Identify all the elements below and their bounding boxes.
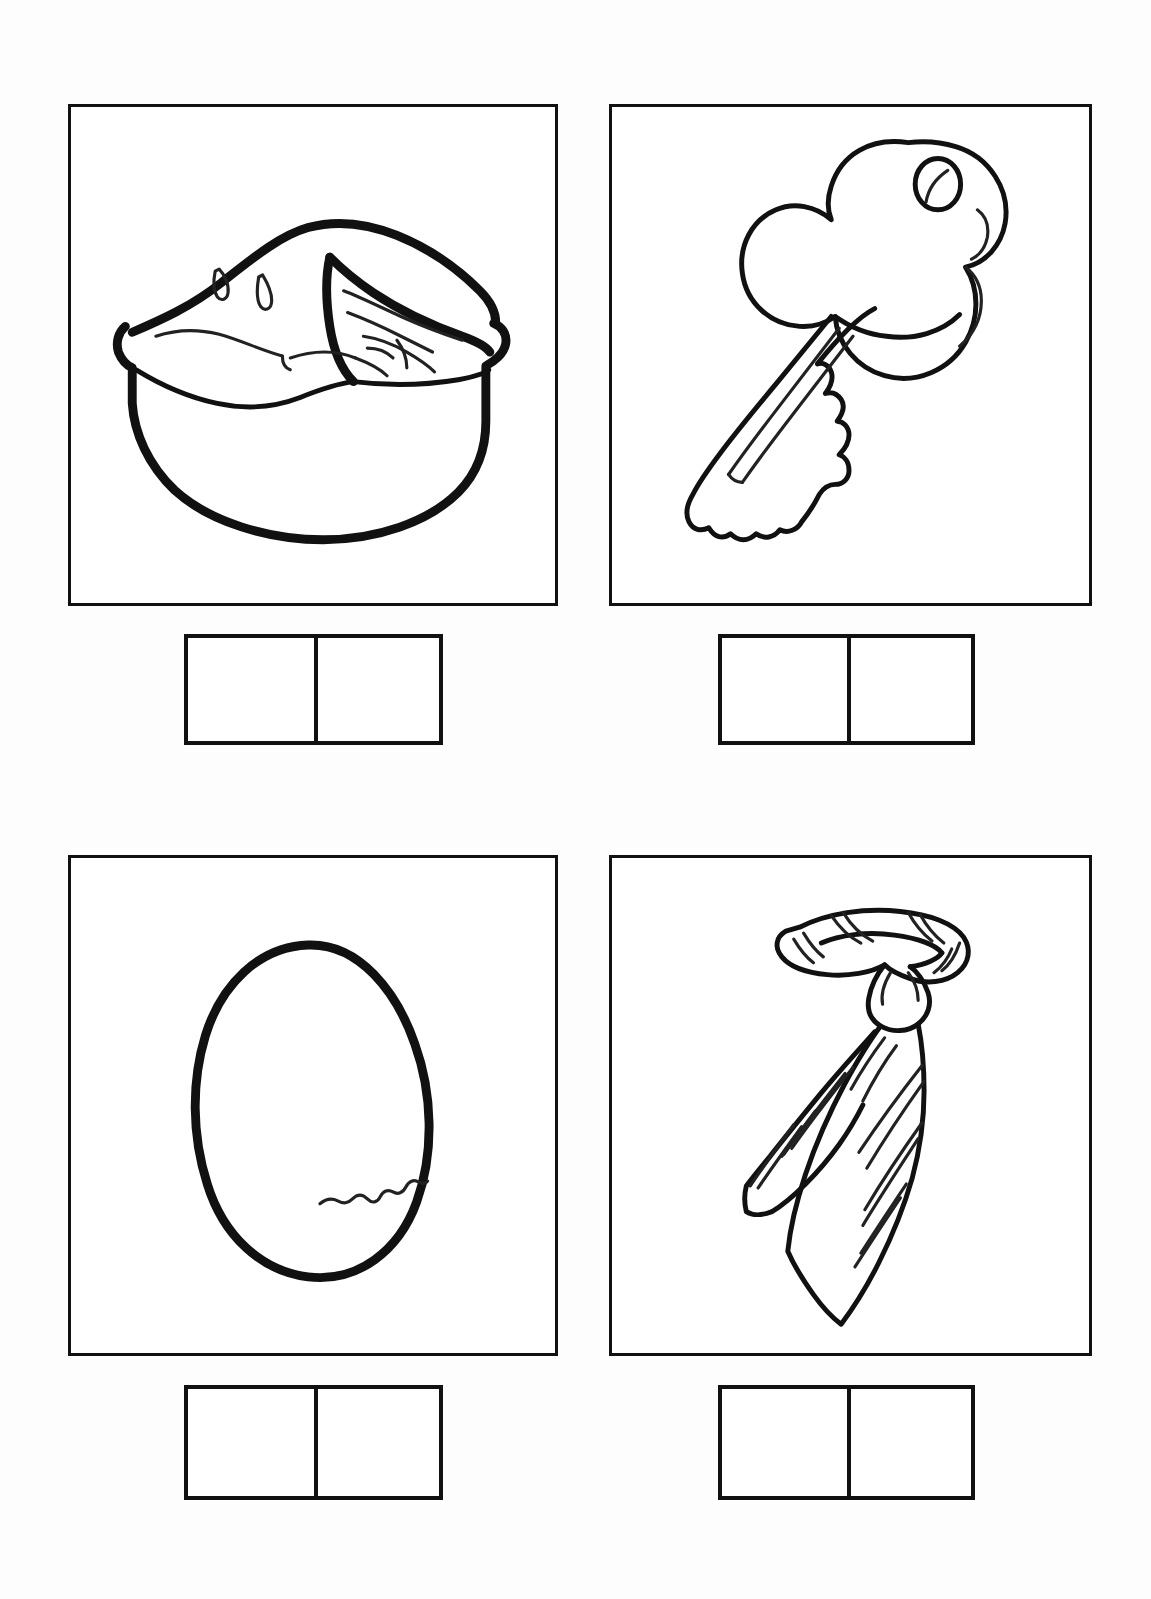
answer-box-tie[interactable] — [718, 1385, 975, 1500]
answer-box-pie[interactable] — [184, 634, 443, 745]
egg-icon — [71, 858, 555, 1353]
answer-cell-2[interactable] — [847, 638, 972, 741]
answer-box-key[interactable] — [718, 634, 975, 745]
answer-cell-2[interactable] — [847, 1389, 972, 1496]
tie-icon — [612, 858, 1089, 1353]
worksheet-page — [0, 0, 1151, 1599]
answer-cell-1[interactable] — [188, 638, 314, 741]
pie-icon — [71, 107, 555, 603]
picture-frame-tie — [609, 855, 1092, 1356]
worksheet-grid — [0, 0, 1151, 1599]
picture-frame-pie — [68, 104, 558, 606]
picture-frame-egg — [68, 855, 558, 1356]
key-icon — [612, 107, 1089, 603]
answer-box-egg[interactable] — [184, 1385, 443, 1500]
picture-frame-key — [609, 104, 1092, 606]
answer-cell-1[interactable] — [722, 638, 847, 741]
answer-cell-2[interactable] — [314, 1389, 440, 1496]
answer-cell-2[interactable] — [314, 638, 440, 741]
answer-cell-1[interactable] — [722, 1389, 847, 1496]
answer-cell-1[interactable] — [188, 1389, 314, 1496]
